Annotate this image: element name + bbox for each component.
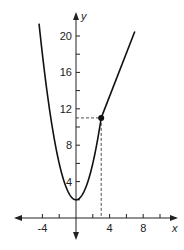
x-axis-right-arrow-icon <box>170 215 178 221</box>
x-tick-label: 4 <box>107 222 113 234</box>
y-tick-label: 16 <box>60 66 72 78</box>
piecewise-function-graph: yx-44848121620 <box>0 0 184 250</box>
y-tick-label: 12 <box>60 103 72 115</box>
y-tick-label: 8 <box>66 139 72 151</box>
x-tick-label: -4 <box>38 222 48 234</box>
linear-segment <box>101 31 135 117</box>
y-axis-up-arrow-icon <box>73 12 79 20</box>
y-tick-label: 4 <box>66 176 72 188</box>
x-tick-label: 8 <box>140 222 146 234</box>
y-tick-label: 20 <box>60 30 72 42</box>
x-axis-left-arrow-icon <box>14 215 22 221</box>
junction-point <box>98 115 104 121</box>
x-axis-label: x <box>171 222 178 234</box>
y-axis-down-arrow-icon <box>73 232 79 240</box>
y-axis-label: y <box>80 10 88 22</box>
